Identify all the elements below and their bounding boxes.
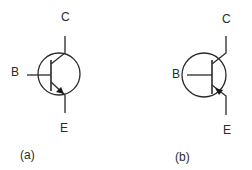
transistor-a-collector-label: C: [61, 10, 70, 24]
transistor-a-caption: (a): [20, 148, 35, 162]
transistor-a-emitter-label: E: [60, 121, 68, 135]
transistor-b-collector-label: C: [222, 12, 231, 26]
transistor-b-base-label: B: [172, 67, 180, 81]
transistor-a-base-label: B: [11, 65, 19, 79]
transistor-a-collector-lead: [51, 36, 65, 64]
transistor-b-caption: (b): [175, 150, 190, 164]
transistor-a-emitter-lead: [51, 82, 65, 113]
transistor-b-emitter-label: E: [223, 123, 231, 137]
transistor-b-pnp: C B E (b): [172, 12, 231, 164]
transistor-diagram: C B E (a) C B E (b): [0, 0, 252, 170]
transistor-a-npn: C B E (a): [11, 10, 80, 162]
